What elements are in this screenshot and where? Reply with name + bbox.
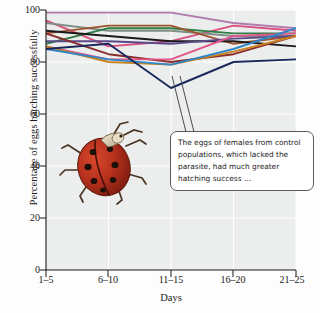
y-tick-60: 60: [10, 109, 40, 119]
x-tick-6-10: 6–10: [80, 274, 136, 285]
y-tick-80: 80: [10, 57, 40, 67]
x-tick-16-20: 16–20: [205, 274, 261, 285]
ladybug-photo: [58, 118, 150, 206]
annotation-callout: The eggs of females from control populat…: [170, 131, 314, 191]
x-tick-21-25: 21–25: [264, 274, 320, 285]
y-tick-40: 40: [10, 161, 40, 171]
x-tick-1-5: 1–5: [18, 274, 74, 285]
callout-leader-line: [150, 68, 230, 138]
x-tick-11-15: 11–15: [143, 274, 199, 285]
y-axis-ticks: 100 80 60 40 20 0: [0, 0, 40, 313]
y-tick-100: 100: [10, 5, 40, 15]
x-axis-label: Days: [46, 292, 296, 303]
figure-container: Percentage of eggs hatching successfully…: [0, 0, 320, 313]
y-tick-20: 20: [10, 213, 40, 223]
